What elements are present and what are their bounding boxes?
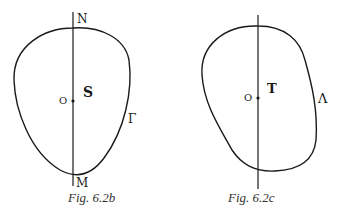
origin-point xyxy=(71,99,74,102)
figure-6-2b: N M O S Γ Fig. 6.2b xyxy=(14,12,136,205)
label-origin: O xyxy=(59,95,67,106)
label-m: M xyxy=(76,176,88,190)
label-region-t: T xyxy=(267,81,277,96)
label-n: N xyxy=(77,12,88,26)
label-region-s: S xyxy=(83,84,93,100)
label-curve-gamma: Γ xyxy=(128,112,136,126)
caption-fig-6-2c: Fig. 6.2c xyxy=(227,190,275,205)
label-curve-lambda: Λ xyxy=(317,91,328,106)
origin-point xyxy=(256,96,259,99)
caption-fig-6-2b: Fig. 6.2b xyxy=(67,190,116,205)
diagram-canvas: N M O S Γ Fig. 6.2b O T Λ Fig. 6.2c xyxy=(0,0,337,216)
figure-6-2c: O T Λ Fig. 6.2c xyxy=(202,15,328,205)
label-origin: O xyxy=(244,92,252,103)
